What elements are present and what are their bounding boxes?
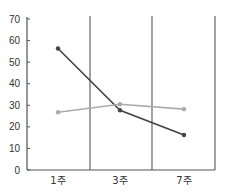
data-point-marker [118, 102, 122, 106]
x-category-label: 1주 [50, 175, 65, 186]
y-tick-label: 70 [9, 14, 21, 25]
y-tick-label: 40 [9, 78, 21, 89]
series-dark-line [58, 49, 184, 136]
series-lines [56, 46, 186, 137]
y-tick-label: 10 [9, 143, 21, 154]
y-tick-label: 50 [9, 57, 21, 68]
y-tick-label: 60 [9, 35, 21, 46]
y-tick-label: 20 [9, 121, 21, 132]
line-chart: 010203040506070 1주3주7주 [0, 0, 231, 196]
y-tick-label: 0 [14, 165, 20, 176]
data-point-marker [182, 133, 186, 137]
y-tick-label: 30 [9, 100, 21, 111]
x-axis: 1주3주7주 [27, 170, 215, 186]
data-point-marker [118, 108, 122, 112]
x-category-label: 3주 [112, 175, 127, 186]
y-axis: 010203040506070 [9, 14, 30, 176]
data-point-marker [56, 110, 60, 114]
data-point-marker [182, 107, 186, 111]
x-category-label: 7주 [176, 175, 191, 186]
data-point-marker [56, 46, 60, 50]
category-separators [90, 16, 215, 170]
